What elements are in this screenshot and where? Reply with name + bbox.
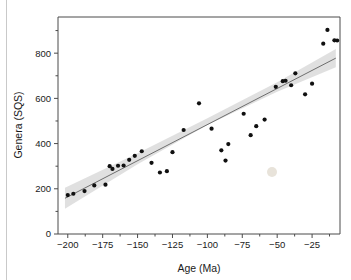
data-point bbox=[289, 83, 293, 87]
data-point bbox=[122, 163, 126, 167]
data-point bbox=[209, 127, 213, 131]
x-tick-label: −50 bbox=[269, 239, 285, 250]
data-point bbox=[170, 150, 174, 154]
x-tick-label: −200 bbox=[57, 239, 78, 250]
data-point bbox=[321, 42, 325, 46]
data-point bbox=[158, 170, 162, 174]
data-point bbox=[197, 101, 201, 105]
data-point bbox=[325, 28, 329, 32]
data-point bbox=[149, 161, 153, 165]
x-tick-label: −175 bbox=[92, 239, 113, 250]
data-point bbox=[103, 183, 107, 187]
regression-line-path bbox=[65, 58, 336, 198]
data-point bbox=[71, 192, 75, 196]
data-point bbox=[242, 112, 246, 116]
data-point bbox=[116, 164, 120, 168]
y-tick-label: 600 bbox=[35, 93, 51, 104]
data-point bbox=[335, 38, 339, 42]
y-tick-label: 400 bbox=[35, 138, 51, 149]
data-point bbox=[223, 158, 227, 162]
regression-line bbox=[65, 58, 336, 198]
y-axis-title: Genera (SQS) bbox=[12, 91, 24, 158]
data-point bbox=[82, 189, 86, 193]
data-point bbox=[127, 158, 131, 162]
data-point bbox=[133, 154, 137, 158]
data-point bbox=[254, 124, 258, 128]
data-point bbox=[66, 193, 70, 197]
data-point bbox=[110, 167, 114, 171]
data-point bbox=[182, 128, 186, 132]
page-margin-rule bbox=[6, 0, 7, 280]
figure-canvas: 0200400600800 −200−175−150−125−100−75−50… bbox=[0, 0, 351, 280]
x-tick-label: −100 bbox=[197, 239, 218, 250]
x-tick-label: −75 bbox=[234, 239, 250, 250]
data-point bbox=[274, 85, 278, 89]
data-point bbox=[92, 183, 96, 187]
y-axis-tick-labels: 0200400600800 bbox=[35, 48, 51, 240]
y-tick-label: 200 bbox=[35, 183, 51, 194]
x-tick-label: −25 bbox=[304, 239, 320, 250]
x-axis-title: Age (Ma) bbox=[177, 262, 220, 274]
data-point bbox=[263, 118, 267, 122]
data-point bbox=[140, 149, 144, 153]
data-point bbox=[310, 82, 314, 86]
scatter-plot: 0200400600800 −200−175−150−125−100−75−50… bbox=[0, 0, 351, 280]
data-point bbox=[226, 142, 230, 146]
data-point bbox=[283, 79, 287, 83]
data-point bbox=[303, 92, 307, 96]
x-axis-tick-labels: −200−175−150−125−100−75−50−25 bbox=[57, 239, 320, 250]
data-point bbox=[249, 133, 253, 137]
data-point bbox=[219, 148, 223, 152]
scan-artifact bbox=[267, 167, 277, 177]
x-axis-ticks bbox=[68, 234, 330, 238]
data-point bbox=[165, 169, 169, 173]
y-tick-label: 800 bbox=[35, 48, 51, 59]
x-tick-label: −150 bbox=[127, 239, 148, 250]
x-tick-label: −125 bbox=[162, 239, 183, 250]
data-point bbox=[293, 71, 297, 75]
y-axis-ticks bbox=[54, 31, 58, 234]
y-tick-label: 0 bbox=[46, 228, 51, 239]
